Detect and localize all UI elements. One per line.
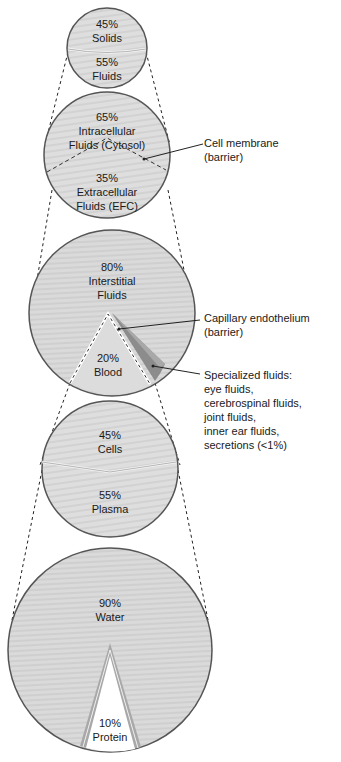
- extracellular-label-1: Extracellular: [77, 186, 138, 198]
- callout-specialized-line5: inner ear fluids,: [204, 425, 279, 437]
- pie-blood: 45% Cells 55% Plasma: [42, 401, 178, 537]
- solids-percent: 45%: [96, 18, 118, 30]
- pie-body: 45% Solids 55% Fluids: [67, 8, 147, 88]
- pie-fluids: 65% Intracellular Fluids (Cytosol) 35% E…: [44, 92, 170, 218]
- extracellular-label-2: Fluids (EFC): [76, 200, 138, 212]
- protein-percent: 10%: [99, 717, 121, 729]
- pie-blood-circle: [42, 401, 178, 537]
- fluid-diagram: 45% Solids 55% Fluids 65% Intracellular …: [0, 0, 341, 762]
- callout-specialized-line2: eye fluids,: [204, 383, 254, 395]
- callout-specialized-line3: cerebrospinal fluids,: [204, 397, 302, 409]
- water-label: Water: [96, 611, 125, 623]
- callout-specialized-line6: secretions (<1%): [204, 439, 287, 451]
- callout-specialized-line1: Specialized fluids:: [204, 369, 292, 381]
- callout-specialized: Specialized fluids: eye fluids, cerebros…: [152, 365, 302, 452]
- plasma-percent: 55%: [99, 489, 121, 501]
- intracellular-percent: 65%: [96, 111, 118, 123]
- blood-percent: 20%: [97, 352, 119, 364]
- callout-cell-membrane-line1: Cell membrane: [204, 137, 279, 149]
- extracellular-percent: 35%: [96, 172, 118, 184]
- intracellular-label-2: Fluids (Cytosol): [69, 139, 145, 151]
- pie-plasma: 90% Water 10% Protein: [8, 548, 212, 752]
- fluids-percent: 55%: [96, 56, 118, 68]
- callout-specialized-line4: joint fluids,: [203, 411, 256, 423]
- callout-capillary-line2: (barrier): [204, 326, 243, 338]
- cells-label: Cells: [98, 443, 123, 455]
- protein-label: Protein: [93, 731, 128, 743]
- intracellular-label-1: Intracellular: [79, 125, 136, 137]
- pie-extracellular: 80% Interstitial Fluids 20% Blood: [29, 230, 195, 396]
- callout-cell-membrane-line2: (barrier): [204, 151, 243, 163]
- cells-percent: 45%: [99, 429, 121, 441]
- interstitial-label-1: Interstitial: [88, 275, 135, 287]
- interstitial-percent: 80%: [101, 261, 123, 273]
- callout-capillary-line1: Capillary endothelium: [204, 312, 310, 324]
- solids-label: Solids: [92, 32, 122, 44]
- blood-label: Blood: [94, 366, 122, 378]
- interstitial-label-2: Fluids: [97, 289, 127, 301]
- fluids-label: Fluids: [92, 70, 122, 82]
- plasma-label: Plasma: [92, 503, 130, 515]
- water-percent: 90%: [99, 597, 121, 609]
